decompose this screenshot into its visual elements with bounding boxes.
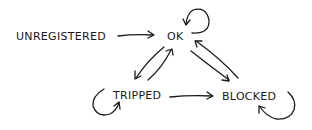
edge-tripped-to-ok — [148, 49, 173, 80]
edge-unregistered-to-ok — [118, 31, 154, 38]
edge-ok-self-loop — [183, 9, 209, 33]
edge-ok-to-tripped — [135, 47, 164, 79]
edge-tripped-to-blocked — [170, 92, 213, 99]
node-unregistered: UNREGISTERED — [16, 31, 106, 42]
node-ok: OK — [167, 31, 183, 42]
edge-ok-to-blocked — [191, 51, 229, 81]
diagram-edges — [0, 0, 312, 130]
state-diagram: UNREGISTERED OK TRIPPED BLOCKED — [0, 0, 312, 130]
node-tripped: TRIPPED — [113, 90, 161, 101]
node-blocked: BLOCKED — [222, 91, 276, 102]
